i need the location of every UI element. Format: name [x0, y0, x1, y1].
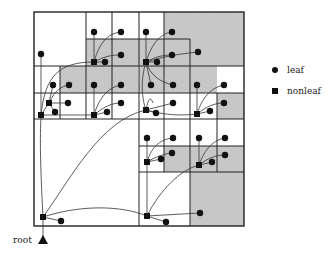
- leaf-node: [169, 29, 175, 35]
- leaf-node: [195, 49, 201, 55]
- leaf-node: [154, 59, 160, 65]
- nonleaf-node: [91, 59, 97, 65]
- leaf-node: [169, 150, 175, 156]
- leaf-node: [118, 100, 124, 106]
- leaf-node: [209, 159, 215, 165]
- nonleaf-node: [46, 100, 52, 106]
- shaded-cell-texture: [112, 66, 138, 93]
- shaded-cell-texture: [190, 172, 244, 226]
- leaf-node: [65, 100, 71, 106]
- nonleaf-node: [91, 112, 97, 118]
- leaf-node: [194, 82, 200, 88]
- nonleaf-node: [144, 159, 150, 165]
- leaf-node: [170, 82, 176, 88]
- shaded-cell-texture: [60, 66, 86, 93]
- leaf-node: [207, 108, 213, 114]
- leaf-node: [91, 29, 97, 35]
- leaf-node: [169, 52, 175, 58]
- leaf-node: [144, 135, 150, 141]
- leaf-node: [170, 100, 176, 106]
- leaf-node: [118, 82, 124, 88]
- nonleaf-node: [40, 214, 46, 220]
- nonleaf-node: [196, 162, 202, 168]
- leaf-node: [196, 135, 202, 141]
- legend-leaf-icon: [272, 67, 278, 73]
- leaf-node: [197, 210, 203, 216]
- legend-leaf-label: leaf: [287, 65, 305, 75]
- legend-nonleaf-label: nonleaf: [287, 86, 322, 96]
- leaf-node: [221, 100, 227, 106]
- leaf-node: [66, 82, 72, 88]
- leaf-node: [118, 29, 124, 35]
- legend-nonleaf-icon: [272, 88, 278, 94]
- leaf-node: [143, 29, 149, 35]
- leaf-node: [102, 59, 108, 65]
- quadtree-diagram: root leaf nonleaf: [0, 0, 332, 254]
- leaf-node: [58, 218, 64, 224]
- nonleaf-node: [144, 213, 150, 219]
- leaf-node: [153, 110, 159, 116]
- leaf-node: [50, 82, 56, 88]
- shaded-cell-texture: [217, 93, 244, 119]
- leaf-node: [91, 82, 97, 88]
- leaf-node: [170, 135, 176, 141]
- leaf-node: [222, 152, 228, 158]
- nonleaf-node: [143, 107, 149, 113]
- nonleaf-node: [38, 112, 44, 118]
- leaf-node: [222, 135, 228, 141]
- leaf-node: [52, 109, 58, 115]
- root-label: root: [13, 235, 32, 245]
- nonleaf-node: [143, 59, 149, 65]
- shaded-cell-texture: [164, 146, 190, 172]
- leaf-node: [221, 82, 227, 88]
- leaf-node: [118, 52, 124, 58]
- leaf-node: [148, 82, 154, 88]
- leaf-node: [163, 219, 169, 225]
- leaf-node: [38, 51, 44, 57]
- nonleaf-node: [194, 111, 200, 117]
- leaf-node: [104, 109, 110, 115]
- shaded-cell-texture: [86, 66, 112, 93]
- leaf-node: [158, 156, 164, 162]
- legend: leaf nonleaf: [272, 65, 322, 96]
- root-triangle-icon: [38, 235, 48, 244]
